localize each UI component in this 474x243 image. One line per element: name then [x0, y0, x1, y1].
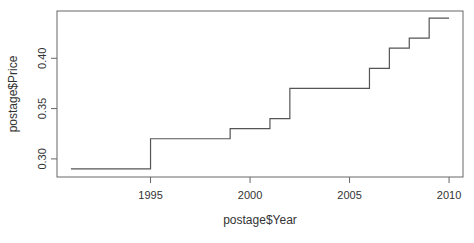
x-axis-label: postage$Year [223, 213, 297, 227]
y-axis-label: postage$Price [6, 55, 20, 132]
step-chart: 0.300.350.40 1995200020052010 postage$Ye… [0, 0, 474, 243]
x-tick-label: 1995 [138, 189, 162, 201]
x-axis: 1995200020052010 [138, 177, 461, 201]
y-axis: 0.300.350.40 [36, 48, 57, 170]
y-tick-label: 0.30 [36, 148, 48, 169]
y-tick-label: 0.40 [36, 48, 48, 69]
x-tick-label: 2010 [437, 189, 461, 201]
plot-box [57, 11, 463, 177]
x-tick-label: 2000 [238, 189, 262, 201]
x-tick-label: 2005 [337, 189, 361, 201]
y-tick-label: 0.35 [36, 98, 48, 119]
price-step-line [71, 18, 449, 169]
